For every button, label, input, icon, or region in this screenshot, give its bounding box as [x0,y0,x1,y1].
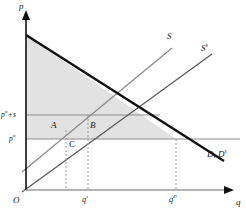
supply-demand-figure: p q O pw+s pw qs qD S Ss D, Ds A B C [0,0,246,220]
x-axis-arrowhead [224,186,234,194]
diagram-canvas [0,0,246,220]
price-label-world-plus-subsidy: pw+s [1,110,16,118]
region-label-c: C [69,140,75,149]
demand-curve-label: D, Ds [207,149,227,159]
quantity-label-supplied: qs [82,195,88,204]
supply-curve-label: S [167,32,172,41]
region-label-a: A [51,121,57,130]
supply-subsidy-curve-label-sup: s [206,42,208,48]
demand-curve-label-sup: s [225,148,227,154]
y-axis-label: p [19,2,24,11]
quantity-label-demanded: qD [169,195,177,204]
region-label-b: B [90,121,96,130]
price-label-world: pw [9,134,16,142]
supply-subsidy-curve-label: Ss [201,43,208,53]
demand-curve-label-base: D, D [207,149,225,159]
y-axis-arrowhead [22,10,30,20]
price-label-world-plus-subsidy-suffix: +s [8,110,16,119]
x-axis-label: q [236,198,241,207]
quantity-label-supplied-sup: s [86,194,88,199]
quantity-label-demanded-sup: D [173,194,177,199]
price-label-world-sup: w [13,133,16,138]
origin-label: O [13,196,20,205]
